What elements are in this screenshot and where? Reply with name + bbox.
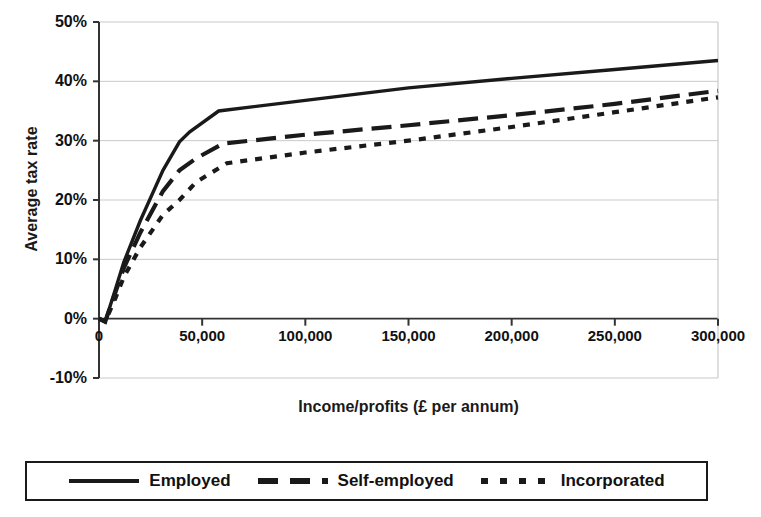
y-tick-label: 30% — [25, 133, 87, 149]
x-tick-label: 250,000 — [565, 327, 665, 344]
legend-swatch-dotted — [480, 474, 552, 488]
y-tick-label: -10% — [25, 370, 87, 386]
legend-entry-incorporated: Incorporated — [467, 471, 678, 491]
y-tick-label: 10% — [25, 251, 87, 267]
x-tick-label: 200,000 — [462, 327, 562, 344]
x-tick-label: 0 — [49, 327, 149, 344]
legend-swatch-solid — [68, 474, 140, 488]
y-tick-label: 20% — [25, 192, 87, 208]
y-tick-label: 40% — [25, 73, 87, 89]
x-tick-label: 150,000 — [359, 327, 459, 344]
legend-label: Incorporated — [561, 471, 665, 491]
y-tick-label: 0% — [25, 311, 87, 327]
legend-swatch-dashed — [257, 474, 329, 488]
x-tick-label: 300,000 — [668, 327, 761, 344]
chart-container: Average tax rate -10%0%10%20%30%40%50% 0… — [0, 0, 761, 517]
plot-area — [0, 0, 761, 440]
series-line-self-employed — [99, 91, 718, 322]
legend-entry-self-employed: Self-employed — [244, 471, 467, 491]
chart-legend: EmployedSelf-employedIncorporated — [25, 461, 708, 501]
series-line-employed — [99, 61, 718, 322]
y-tick-label: 50% — [25, 14, 87, 30]
x-tick-label: 50,000 — [152, 327, 252, 344]
x-axis-title: Income/profits (£ per annum) — [99, 398, 718, 416]
legend-label: Employed — [149, 471, 230, 491]
x-tick-label: 100,000 — [255, 327, 355, 344]
legend-label: Self-employed — [338, 471, 454, 491]
legend-entry-employed: Employed — [55, 471, 243, 491]
